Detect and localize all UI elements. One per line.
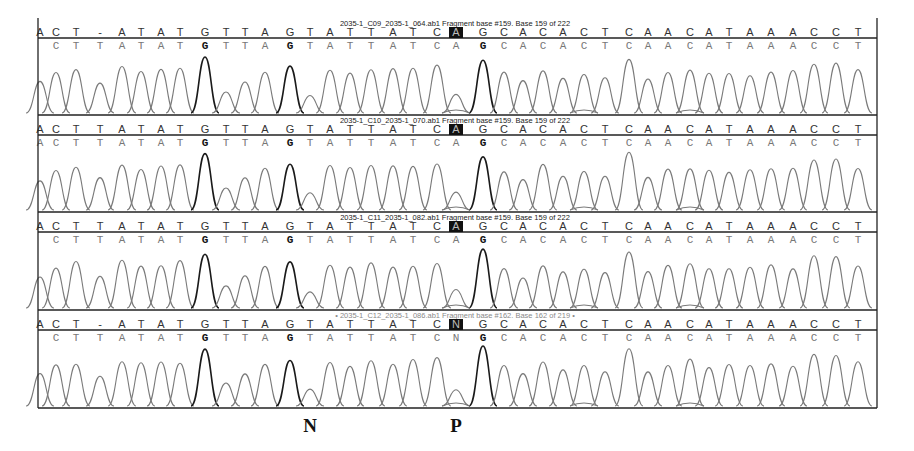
- base-call: A: [665, 332, 672, 344]
- reference-base: T: [177, 220, 184, 232]
- reference-base: T: [368, 26, 375, 38]
- trace-peak: [469, 60, 497, 113]
- trace-peak: [529, 164, 557, 210]
- base-call: T: [97, 234, 104, 246]
- reference-base: T: [223, 220, 230, 232]
- trace-peak: [715, 74, 743, 113]
- trace-peak: [549, 176, 577, 210]
- base-call: A: [645, 137, 652, 149]
- reference-base: T: [368, 318, 375, 330]
- reference-base: C: [433, 318, 441, 330]
- reference-base: T: [138, 26, 145, 38]
- base-call: C: [687, 137, 694, 149]
- annotation-label-n: N: [303, 415, 317, 436]
- reference-base: A: [789, 123, 797, 135]
- base-call: A: [645, 332, 652, 344]
- trace-peak: [357, 70, 385, 113]
- reference-base: T: [223, 123, 230, 135]
- reference-base: A: [519, 26, 527, 38]
- reference-base: C: [625, 318, 633, 330]
- reference-base: T: [242, 26, 249, 38]
- reference-base: C: [810, 220, 818, 232]
- reference-base: T: [223, 318, 230, 330]
- trace-peak: [423, 65, 451, 113]
- base-call: C: [434, 137, 441, 149]
- reference-base: A: [705, 123, 713, 135]
- base-call: C: [833, 332, 840, 344]
- reference-base: C: [625, 26, 633, 38]
- base-call: A: [747, 40, 754, 52]
- reference-base: A: [519, 318, 527, 330]
- reference-base: A: [389, 220, 397, 232]
- reference-base: A: [644, 220, 652, 232]
- reference-base: A: [157, 26, 165, 38]
- reference-base: A: [326, 123, 334, 135]
- trace-peak: [591, 176, 619, 210]
- base-call: C: [626, 137, 633, 149]
- trace-peak: [615, 349, 643, 406]
- reference-base: A: [664, 26, 672, 38]
- reference-base: A: [746, 220, 754, 232]
- base-call: A: [747, 332, 754, 344]
- reference-base: T: [73, 123, 80, 135]
- trace-peak: [316, 70, 344, 113]
- reference-base: T: [138, 220, 145, 232]
- base-call: C: [501, 137, 508, 149]
- base-call: A: [560, 332, 567, 344]
- base-call: T: [347, 332, 354, 344]
- base-call: C: [626, 234, 633, 246]
- trace-peak: [591, 78, 619, 113]
- base-call: T: [602, 40, 609, 52]
- reference-base: G: [479, 220, 488, 232]
- base-call: A: [390, 234, 397, 246]
- reference-base: A: [664, 220, 672, 232]
- base-call: A: [747, 234, 754, 246]
- base-call: A: [768, 40, 775, 52]
- base-call: A: [747, 137, 754, 149]
- reference-base: A: [789, 220, 797, 232]
- reference-base: C: [500, 26, 508, 38]
- base-call: C: [434, 332, 441, 344]
- trace-peak: [469, 346, 497, 406]
- trace-peak: [591, 273, 619, 308]
- base-call: T: [726, 332, 733, 344]
- position-annotations: NP: [303, 415, 462, 436]
- trace-peak: [166, 68, 194, 113]
- reference-base: C: [433, 220, 441, 232]
- trace-peak: [26, 277, 54, 308]
- trace-peak: [399, 360, 427, 406]
- reference-base: A: [559, 318, 567, 330]
- base-call: C: [626, 40, 633, 52]
- base-call: T: [223, 234, 230, 246]
- base-call: T: [73, 40, 80, 52]
- trace-peak: [779, 366, 807, 406]
- base-call: A: [119, 332, 126, 344]
- reference-base: C: [52, 26, 60, 38]
- trace-peak: [251, 72, 279, 113]
- base-call: G: [287, 137, 294, 149]
- reference-base: G: [201, 318, 210, 330]
- base-call: A: [327, 332, 334, 344]
- base-call: A: [790, 137, 797, 149]
- trace-peak: [26, 373, 54, 406]
- base-call: T: [855, 137, 862, 149]
- trace-peak: [529, 266, 557, 308]
- base-call: T: [177, 234, 184, 246]
- reference-base: T: [855, 26, 862, 38]
- reference-base: A: [157, 318, 165, 330]
- base-call: T: [855, 40, 862, 52]
- trace-peak: [549, 272, 577, 308]
- trace-peak: [736, 366, 764, 406]
- base-call: C: [811, 332, 818, 344]
- base-call: A: [158, 40, 165, 52]
- reference-base: A: [389, 26, 397, 38]
- base-call: T: [602, 332, 609, 344]
- reference-base: A: [644, 123, 652, 135]
- reference-base: T: [726, 318, 733, 330]
- reference-base: T: [602, 26, 609, 38]
- trace-peak: [336, 366, 364, 406]
- trace-peak: [800, 354, 828, 406]
- base-call: A: [768, 234, 775, 246]
- base-call: T: [223, 332, 230, 344]
- reference-base: A: [789, 26, 797, 38]
